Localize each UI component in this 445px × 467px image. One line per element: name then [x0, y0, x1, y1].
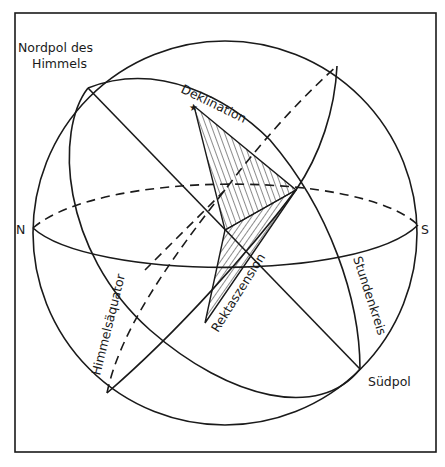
back-arc-dashed — [145, 190, 225, 270]
star-icon: ★ — [189, 102, 198, 113]
label-suedpol: Südpol — [368, 374, 411, 389]
label-north: N — [16, 222, 25, 237]
label-himmelsaequator: Himmelsäquator — [88, 272, 128, 377]
label-south: S — [421, 222, 429, 237]
celestial-sphere-diagram: ★ Nordpol des Himmels Deklination N S Hi… — [0, 0, 445, 467]
label-nordpol-line1: Nordpol des — [18, 40, 93, 55]
label-nordpol-line2: Himmels — [32, 56, 87, 71]
